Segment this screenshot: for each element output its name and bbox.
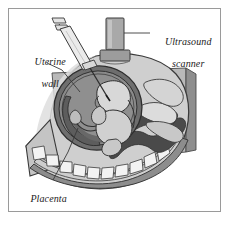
label-ultrasound-line2: scanner (172, 58, 204, 69)
label-placenta-line1: Placenta (30, 193, 66, 204)
ultrasound-scanner-probe[interactable] (100, 18, 130, 64)
label-uterine-line1: Uterine (35, 56, 66, 67)
label-placenta: Placenta (20, 182, 90, 215)
scanner-footplate (100, 50, 130, 61)
label-uterine-line2: wall (41, 78, 59, 89)
illustration-figure: Ultrasound scanner Uterine wall Placenta (0, 0, 235, 229)
label-ultrasound-scanner: Ultrasound scanner (152, 25, 214, 80)
label-ultrasound-line1: Ultrasound (165, 36, 212, 47)
scanner-handle-highlight (108, 20, 112, 48)
label-uterine-wall: Uterine wall (18, 45, 72, 100)
syringe-thumb-rest (52, 18, 66, 23)
